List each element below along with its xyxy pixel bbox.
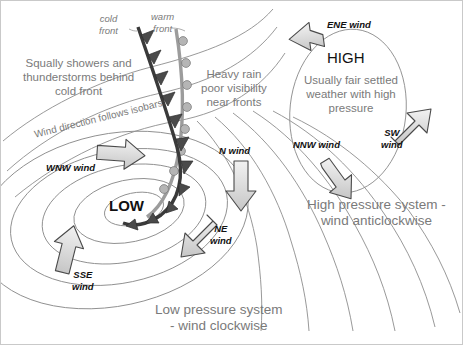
high-pressure-caption: High pressure system - wind anticlockwis… [307,197,446,230]
heavy-rain-annotation: Heavy rain poor visibility near fronts [201,67,267,109]
squally-showers-annotation: Squally showers and thunderstorms behind… [23,56,134,98]
wind-label-ne: NE wind [210,223,232,246]
warm-front-label: warm front [151,11,174,34]
wind-label-ene: ENE wind [327,19,371,30]
weather-diagram: cold front warm front Squally showers an… [0,0,463,345]
high-pressure-centre-label: HIGH [327,49,365,66]
low-pressure-centre-label: LOW [109,197,144,214]
wind-label-sse: SSE wind [72,269,94,292]
leader-cold-front [129,29,137,31]
cold-front-label: cold front [99,13,118,36]
wind-label-nnw: NNW wind [293,139,340,150]
leader-line-layer [1,1,463,345]
wind-label-n: N wind [219,145,250,156]
wind-label-sw: SW wind [381,127,403,150]
wind-label-wnw: WNW wind [46,162,95,173]
high-pressure-description: Usually fair settled weather with high p… [304,73,398,115]
low-pressure-caption: Low pressure system - wind clockwise [155,302,283,335]
